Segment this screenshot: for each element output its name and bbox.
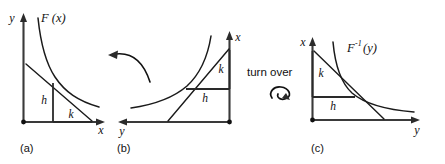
panel-c-leg-k-label: k [318,67,324,79]
panel-b-caption: (b) [117,142,130,154]
panel-c-function-label-argument: (y) [363,41,377,55]
panel-a-y-axis-arrowhead [20,13,27,22]
panel-b: x y h k (b) [117,30,241,154]
panel-b-tangent-line [168,49,229,121]
rotate-arrow-curve [115,54,150,82]
panel-a-tangent-line [26,64,92,121]
panel-b-y-axis-label: y [118,124,125,138]
panel-a-leg-k-label: k [68,108,74,120]
panel-c-origin-dot [310,118,315,123]
panel-c-function-label-base: F [346,41,355,55]
panel-c: x y F -1 (y) k h (c) [299,35,420,154]
panel-a-x-axis-label: x [97,123,104,137]
panel-c-leg-h-label: h [330,100,336,112]
figure-root: y x F (x) h k (a) [0,0,445,164]
panel-c-caption: (c) [311,142,324,154]
panel-a: y x F (x) h k (a) [8,11,105,154]
panel-b-leg-h-label: h [202,92,208,104]
panel-c-x-axis-arrowhead [309,37,316,46]
panel-a-function-label: F (x) [40,11,66,25]
rotate-arrow-arrowhead [108,51,118,60]
panel-c-function-label-exponent: -1 [355,39,362,48]
rotate-arrow [108,51,150,83]
turn-over-label: turn over [247,66,293,78]
panel-a-y-axis-label: y [8,11,15,25]
panel-c-function-label: F -1 (y) [346,39,377,55]
panel-b-leg-k-label: k [218,63,224,75]
panel-a-origin-dot [21,120,26,125]
panel-a-leg-h-label: h [41,94,47,106]
panel-c-tangent-line [314,51,384,119]
panel-c-y-axis-label: y [413,123,420,137]
panel-a-caption: (a) [20,142,33,154]
panel-b-origin-dot [227,120,232,125]
panel-b-x-axis-label: x [234,30,241,44]
figure-canvas: y x F (x) h k (a) [0,0,445,164]
panel-b-curve [131,36,211,108]
turn-over-annotation: turn over [247,66,293,100]
panel-b-x-axis-arrowhead [226,31,233,40]
panel-c-x-axis-label: x [299,35,306,49]
panel-a-curve [38,18,99,107]
